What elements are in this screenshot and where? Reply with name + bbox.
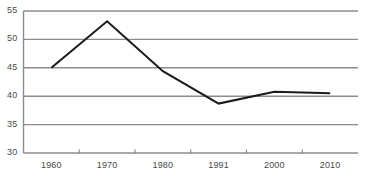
y-tick-label-30: 30 xyxy=(0,148,18,157)
x-tick-label-2010: 2010 xyxy=(302,161,358,170)
x-tick-label-1980: 1980 xyxy=(135,161,191,170)
chart-plot-area xyxy=(0,0,365,183)
y-tick-label-35: 35 xyxy=(0,120,18,129)
x-tick-label-1970: 1970 xyxy=(79,161,135,170)
y-tick-label-55: 55 xyxy=(0,6,18,15)
x-tick-label-1960: 1960 xyxy=(24,161,80,170)
gridlines-group xyxy=(24,11,359,153)
data-series-line xyxy=(51,21,330,103)
x-tick-label-1991: 1991 xyxy=(191,161,247,170)
x-tick-label-2000: 2000 xyxy=(247,161,303,170)
y-tick-label-40: 40 xyxy=(0,91,18,100)
line-chart: 303540455055 196019701980199120002010 xyxy=(0,0,365,183)
y-tick-label-45: 45 xyxy=(0,63,18,72)
y-tick-label-50: 50 xyxy=(0,34,18,43)
